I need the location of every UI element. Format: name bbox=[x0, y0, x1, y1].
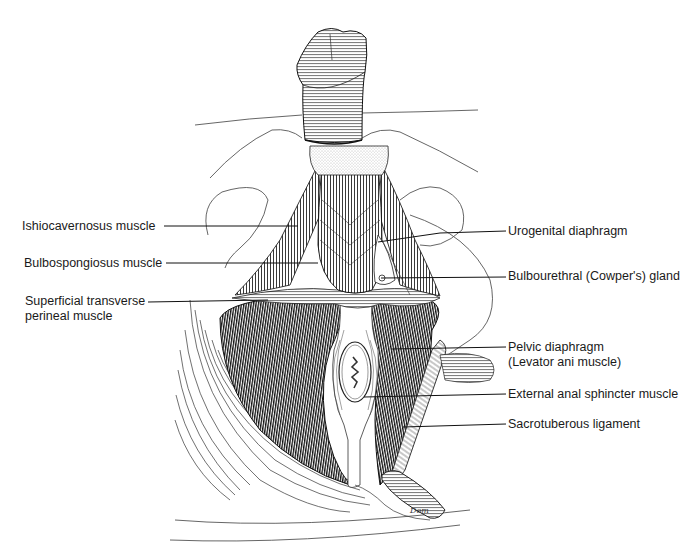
label-ishiocavernosus-muscle: Ishiocavernosus muscle bbox=[22, 219, 155, 234]
label-line-2: (Levator ani muscle) bbox=[508, 355, 621, 370]
artist-signature: Dom bbox=[410, 506, 429, 515]
label-line-1: Superficial transverse bbox=[25, 294, 145, 309]
label-pelvic-diaphragm: Pelvic diaphragm (Levator ani muscle) bbox=[508, 340, 621, 370]
penis-glans bbox=[297, 29, 367, 143]
label-line-1: Pelvic diaphragm bbox=[508, 340, 621, 355]
label-line-2: perineal muscle bbox=[25, 309, 145, 324]
label-sacrotuberous-ligament: Sacrotuberous ligament bbox=[508, 417, 640, 432]
anus bbox=[339, 342, 371, 402]
label-superficial-transverse-perineal-muscle: Superficial transverse perineal muscle bbox=[25, 294, 145, 324]
label-urogenital-diaphragm: Urogenital diaphragm bbox=[508, 224, 628, 239]
label-bulbospongiosus-muscle: Bulbospongiosus muscle bbox=[24, 256, 162, 271]
label-bulbourethral-gland: Bulbourethral (Cowper's) gland bbox=[508, 269, 680, 284]
penis-shaft-stipple bbox=[310, 146, 389, 175]
label-external-anal-sphincter-muscle: External anal sphincter muscle bbox=[508, 387, 678, 402]
ishiocavernosus-left bbox=[235, 165, 322, 295]
levator-ani-left bbox=[220, 296, 350, 485]
